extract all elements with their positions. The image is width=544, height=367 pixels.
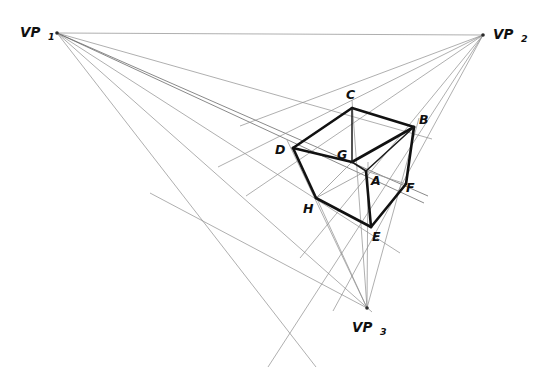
vertex-label-f: F: [406, 180, 415, 195]
perspective-diagram: VP 1 VP 2 VP 3 A B C D E F G H: [0, 0, 544, 367]
vp2-label: VP: [493, 26, 513, 42]
vp2-label-subscript: 2: [521, 33, 528, 44]
perspective-canvas: VP 1 VP 2 VP 3 A B C D E F G H: [0, 0, 544, 367]
vp1-label-subscript: 1: [48, 31, 55, 42]
vp3-label-subscript: 3: [380, 326, 387, 337]
vertex-label-d: D: [275, 142, 285, 157]
vp3-label: VP: [352, 319, 372, 335]
vp1-label: VP: [20, 24, 40, 40]
vp2-dot: [481, 33, 485, 37]
vertex-label-e: E: [372, 229, 381, 244]
vertex-label-h: H: [303, 201, 314, 216]
vertex-label-c: C: [346, 87, 356, 102]
vp1-dot: [55, 31, 59, 35]
vertex-label-a: A: [370, 173, 381, 188]
vertex-label-g: G: [337, 147, 347, 162]
vp3-dot: [365, 306, 369, 310]
vertex-label-b: B: [419, 112, 429, 127]
